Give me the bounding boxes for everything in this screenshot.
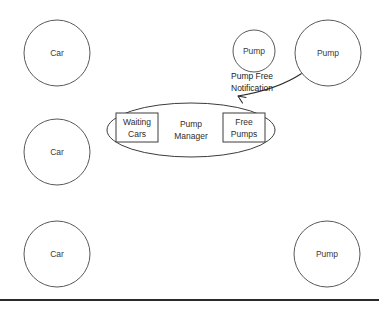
- diagram-canvas: Car Car Car Pump Pump Pump: [0, 0, 379, 311]
- car-node-3[interactable]: Car: [24, 221, 90, 287]
- car-node-1[interactable]: Car: [24, 20, 90, 86]
- pump-manager-label-line2: Manager: [174, 131, 208, 141]
- footer-divider: [0, 299, 379, 301]
- notification-arrow-head-icon: [238, 96, 246, 103]
- pump-manager-node[interactable]: Pump Manager Waiting Cars Free Pumps: [107, 103, 275, 157]
- pump-label-1: Pump: [243, 46, 265, 56]
- pump-node-1[interactable]: Pump: [233, 30, 275, 72]
- car-label-2: Car: [50, 147, 64, 157]
- pump-free-notification-label: Pump Free Notification: [231, 71, 273, 93]
- free-pumps-label-line1: Free: [235, 117, 253, 127]
- notification-label-line1: Pump Free: [231, 71, 273, 81]
- car-node-2[interactable]: Car: [24, 119, 90, 185]
- free-pumps-node[interactable]: Free Pumps: [223, 113, 265, 142]
- car-label-1: Car: [50, 48, 64, 58]
- notification-label-line2: Notification: [231, 83, 273, 93]
- pump-node-3[interactable]: Pump: [294, 221, 360, 287]
- waiting-cars-label-line1: Waiting: [123, 117, 151, 127]
- pump-label-3: Pump: [316, 249, 338, 259]
- car-label-3: Car: [50, 249, 64, 259]
- pump-manager-label-line1: Pump: [180, 119, 202, 129]
- pump-node-2[interactable]: Pump: [295, 20, 361, 86]
- pump-manager-diagram: Car Car Car Pump Pump Pump: [0, 0, 379, 311]
- waiting-cars-node[interactable]: Waiting Cars: [116, 113, 158, 142]
- free-pumps-label-line2: Pumps: [231, 129, 257, 139]
- pump-label-2: Pump: [317, 48, 339, 58]
- waiting-cars-label-line2: Cars: [128, 129, 146, 139]
